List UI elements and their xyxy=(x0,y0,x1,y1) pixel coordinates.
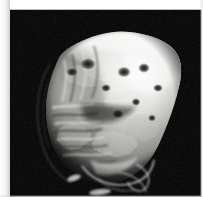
page-edge-top xyxy=(0,0,203,9)
image-page xyxy=(0,0,203,197)
page-edge-left xyxy=(0,0,10,197)
render-canvas xyxy=(10,10,203,197)
page-edge-bottom xyxy=(0,195,203,197)
specimen-render xyxy=(10,10,203,197)
page-edge-right xyxy=(200,0,203,197)
film-grain xyxy=(10,10,203,197)
